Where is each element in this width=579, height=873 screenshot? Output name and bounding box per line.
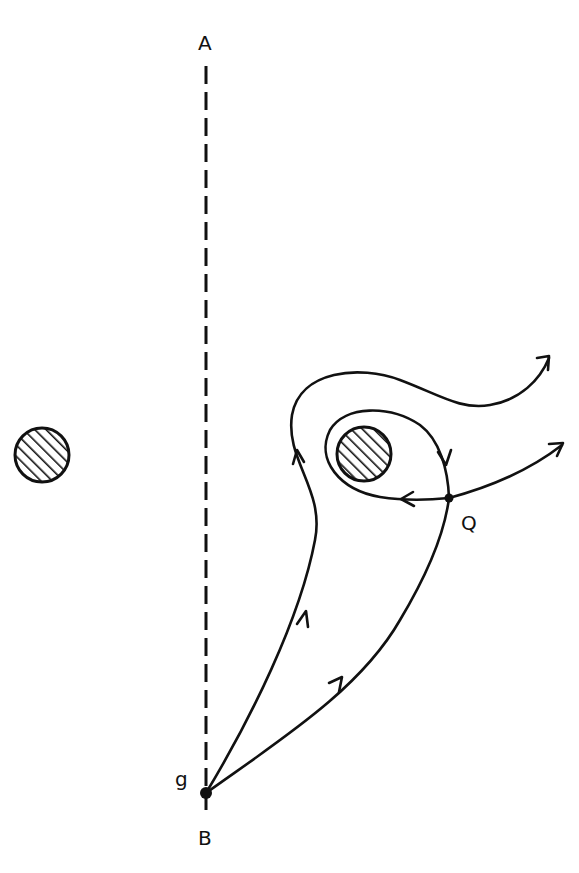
label-a: A	[198, 31, 212, 55]
point-g	[200, 787, 212, 799]
q-outgoing-trajectory	[449, 445, 562, 498]
label-q: Q	[461, 511, 477, 535]
label-g: g	[175, 767, 188, 791]
point-q	[445, 494, 454, 503]
left-obstacle-icon	[15, 428, 69, 482]
arrow-mid-outer-icon	[297, 611, 308, 627]
outer-trajectory	[206, 358, 549, 793]
arrow-mid-inner-icon	[329, 677, 342, 692]
center-obstacle-icon	[337, 427, 391, 481]
diagram-canvas: A B g Q	[0, 0, 579, 873]
label-b: B	[198, 826, 212, 850]
inner-trajectory	[206, 498, 449, 793]
